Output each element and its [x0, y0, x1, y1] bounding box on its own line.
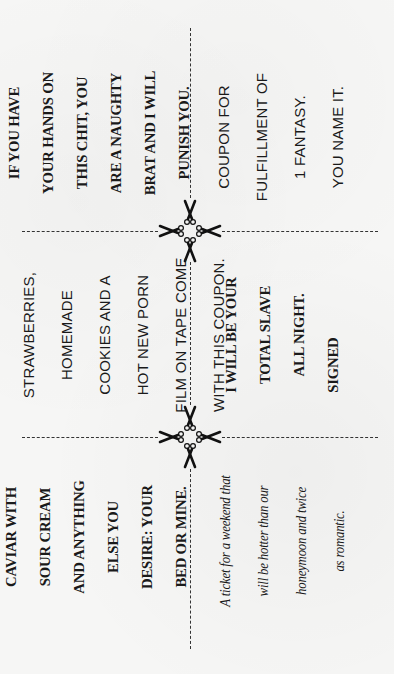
coupon-line: ARE A NAUGHTY — [107, 71, 124, 195]
coupon-line: ALL NIGHT. — [290, 277, 307, 393]
coupon-line: STRAWBERRIES, — [19, 257, 38, 412]
cut-line-horizontal-upper-right — [222, 231, 378, 232]
coupon-line: YOUR HANDS ON — [39, 71, 56, 195]
coupon-ticket: A ticket for a weekend that will be hott… — [197, 475, 368, 606]
coupon-punish: IF YOU HAVE YOUR HANDS ON THIS CHIT, YOU… — [0, 71, 209, 195]
coupon-line: as romantic. — [330, 475, 349, 606]
scissors-icon — [157, 198, 223, 264]
coupon-line: FULFILLMENT OF — [252, 73, 271, 201]
coupon-line: DESIRE: YOUR — [138, 480, 155, 593]
coupon-line: CAVIAR WITH — [2, 480, 19, 593]
coupon-sheet: IF YOU HAVE YOUR HANDS ON THIS CHIT, YOU… — [0, 0, 394, 674]
coupon-line: YOU NAME IT. — [328, 73, 347, 201]
coupon-line: SOUR CREAM — [36, 480, 53, 593]
coupon-fantasy: COUPON FOR FULFILLMENT OF 1 FANTASY. YOU… — [195, 73, 366, 201]
coupon-line: COUPON FOR — [214, 73, 233, 201]
coupon-slave: I WILL BE YOUR TOTAL SLAVE ALL NIGHT. SI… — [205, 277, 358, 393]
coupon-line: honeymoon and twice — [292, 475, 311, 606]
coupon-line: HOT NEW PORN — [133, 257, 152, 412]
coupon-line: TOTAL SLAVE — [256, 277, 273, 393]
coupon-line: will be hotter than our — [254, 475, 273, 606]
coupon-line: THIS CHIT, YOU — [73, 71, 90, 195]
coupon-line: I WILL BE YOUR — [222, 277, 239, 393]
coupon-signature-line: SIGNED — [324, 277, 341, 393]
coupon-line: HOMEMADE — [57, 257, 76, 412]
coupon-line: A ticket for a weekend that — [216, 475, 235, 606]
coupon-caviar: CAVIAR WITH SOUR CREAM AND ANYTHING ELSE… — [0, 480, 206, 593]
cut-line-horizontal-lower-left — [22, 437, 158, 438]
coupon-line: ELSE YOU — [104, 480, 121, 593]
cut-line-horizontal-lower-right — [222, 437, 378, 438]
coupon-line: COOKIES AND A — [95, 257, 114, 412]
coupon-line: IF YOU HAVE — [5, 71, 22, 195]
coupon-line: AND ANYTHING — [70, 480, 87, 593]
coupon-line: 1 FANTASY. — [290, 73, 309, 201]
scissors-icon — [157, 404, 223, 470]
coupon-line: FILM ON TAPE COME — [171, 257, 190, 412]
coupon-line: BED OR MINE. — [172, 480, 189, 593]
coupon-line: BRAT AND I WILL — [141, 71, 158, 195]
cut-line-horizontal-upper-left — [22, 231, 158, 232]
coupon-line: PUNISH YOU. — [175, 71, 192, 195]
